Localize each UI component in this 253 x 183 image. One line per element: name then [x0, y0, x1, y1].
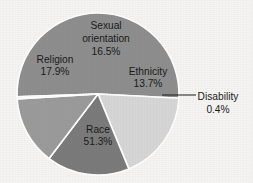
slice-label-race: Race	[86, 124, 110, 135]
slice-value-ethnicity: 13.7%	[134, 78, 163, 89]
pie-chart-figure: Race 51.3% Religion 17.9% Sexual orienta…	[0, 0, 253, 183]
slice-label-religion: Religion	[37, 54, 74, 65]
slice-value-disability: 0.4%	[206, 104, 229, 115]
slice-label-disability: Disability	[198, 91, 240, 102]
slice-label-sexual-orientation-line1: Sexual	[90, 20, 121, 31]
slice-label-ethnicity: Ethnicity	[129, 66, 168, 77]
slice-value-religion: 17.9%	[41, 66, 70, 77]
slice-label-sexual-orientation-line2: orientation	[82, 33, 130, 44]
pie-chart-svg: Race 51.3% Religion 17.9% Sexual orienta…	[0, 0, 253, 183]
slice-value-race: 51.3%	[84, 136, 113, 147]
slice-value-sexual-orientation: 16.5%	[92, 46, 121, 57]
